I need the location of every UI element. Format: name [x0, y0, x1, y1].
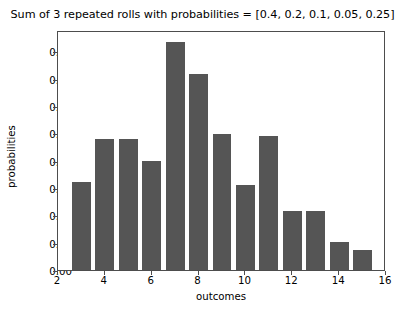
- x-tick-label: 4: [84, 275, 124, 286]
- x-tick-mark: [151, 271, 152, 275]
- x-tick-mark: [338, 271, 339, 275]
- x-tick-mark: [291, 271, 292, 275]
- x-tick-label: 8: [178, 275, 218, 286]
- bar: [236, 185, 255, 270]
- bar: [306, 211, 325, 270]
- bar: [119, 139, 138, 270]
- bar: [166, 42, 185, 270]
- x-tick-label: 12: [271, 275, 311, 286]
- x-tick-label: 6: [131, 275, 171, 286]
- x-tick-mark: [244, 271, 245, 275]
- x-tick-mark: [104, 271, 105, 275]
- bar: [259, 136, 278, 270]
- chart-figure: Sum of 3 repeated rolls with probabiliti…: [0, 0, 405, 315]
- x-tick-mark: [57, 271, 58, 275]
- bar: [330, 242, 349, 270]
- x-tick-mark: [198, 271, 199, 275]
- bar: [213, 134, 232, 270]
- bar: [353, 250, 372, 270]
- x-tick-label: 16: [365, 275, 405, 286]
- x-tick-mark: [385, 271, 386, 275]
- bar: [72, 182, 91, 270]
- bars-layer: [58, 32, 384, 270]
- x-tick-label: 10: [224, 275, 264, 286]
- x-tick-label: 14: [318, 275, 358, 286]
- bar: [142, 161, 161, 270]
- x-tick-label: 2: [37, 275, 77, 286]
- plot-area: [57, 31, 385, 271]
- bar: [189, 74, 208, 270]
- bar: [283, 211, 302, 270]
- bar: [95, 139, 114, 270]
